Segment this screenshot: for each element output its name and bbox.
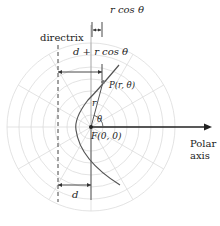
- polar-axis-arrowhead-icon: [204, 124, 212, 131]
- dimension-arrow-right-icon: [98, 70, 102, 74]
- label-directrix: directrix: [40, 32, 84, 43]
- label-focus: F(0, 0): [90, 131, 122, 141]
- label-polar-axis-line2: axis: [190, 150, 210, 161]
- r-cos-theta-dimension: [92, 22, 102, 37]
- focus-point: [89, 125, 93, 129]
- label-r-cos-theta: r cos θ: [110, 4, 144, 15]
- point-p: [101, 80, 105, 84]
- r-cos-theta-arrow-icon: [98, 29, 101, 32]
- label-d: d: [72, 189, 78, 200]
- label-d-plus-r-cos-theta: d + r cos θ: [73, 46, 128, 57]
- label-r: r: [92, 98, 97, 108]
- label-point-p: P(r, θ): [108, 80, 135, 90]
- d-plus-r-cos-theta-dimension: [58, 64, 102, 80]
- label-polar-axis-line1: Polar: [190, 138, 217, 149]
- label-theta: θ: [97, 114, 102, 124]
- r-cos-theta-arrow-icon: [93, 29, 96, 32]
- parabola-polar-diagram: r cos θ directrix d + r cos θ P(r, θ) r …: [0, 0, 220, 226]
- d-arrow-right-icon: [87, 183, 91, 187]
